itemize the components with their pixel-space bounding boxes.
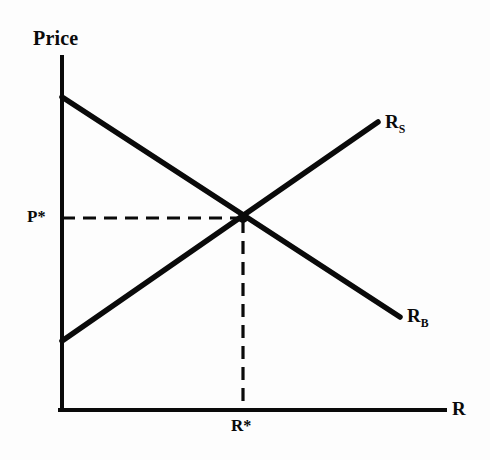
equilibrium-price-label: P* [27, 208, 45, 225]
y-axis-title: Price [33, 28, 78, 48]
equilibrium-quantity-letter: R [231, 416, 243, 435]
demand-curve-rb [62, 97, 400, 317]
x-axis-title: R [452, 399, 466, 418]
supply-curve-label-base: R [385, 111, 399, 132]
supply-curve-label-subscript: S [399, 123, 406, 136]
equilibrium-quantity-label: R* [231, 417, 251, 434]
equilibrium-quantity-asterisk: * [243, 417, 251, 434]
supply-curve-rs [62, 122, 378, 341]
equilibrium-point-marker [238, 213, 248, 223]
plot-canvas [0, 0, 490, 460]
supply-curve-label: RS [385, 112, 405, 136]
demand-curve-label: RB [407, 306, 429, 330]
equilibrium-price-letter: P [27, 207, 37, 226]
supply-demand-figure: Price P* R* R RS RB [0, 0, 490, 460]
equilibrium-price-asterisk: * [37, 208, 45, 225]
demand-curve-label-base: R [407, 305, 421, 326]
demand-curve-label-subscript: B [421, 317, 429, 330]
